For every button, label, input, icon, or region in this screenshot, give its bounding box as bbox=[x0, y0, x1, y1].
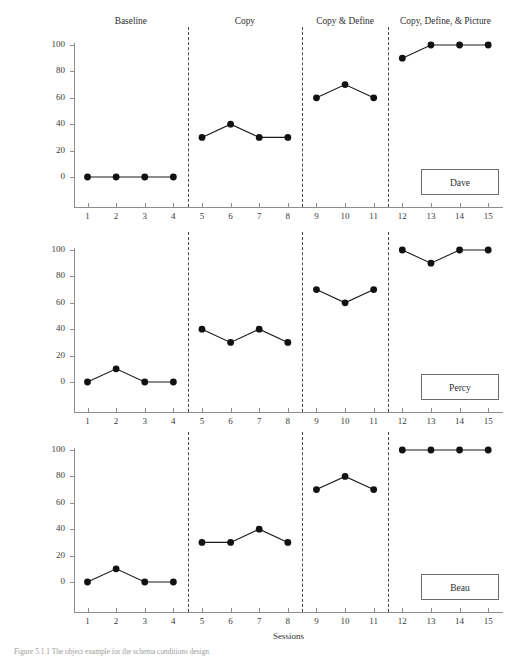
data-point-marker bbox=[342, 473, 349, 480]
data-point-marker bbox=[84, 579, 91, 586]
data-point-marker bbox=[313, 486, 320, 493]
data-point-marker bbox=[199, 539, 206, 546]
data-point-marker bbox=[456, 447, 463, 454]
series-line-segment bbox=[88, 569, 174, 582]
data-point-marker bbox=[227, 539, 234, 546]
x-axis-title: Sessions bbox=[74, 631, 503, 641]
panel-beau: 020406080100123456789101112131415Beau bbox=[0, 0, 513, 656]
participant-label-beau: Beau bbox=[421, 574, 499, 600]
data-point-marker bbox=[256, 526, 263, 533]
data-point-marker bbox=[170, 579, 177, 586]
data-point-marker bbox=[428, 447, 435, 454]
data-point-marker bbox=[399, 447, 406, 454]
figure-container: Percentage of Vocabulary Words Defined C… bbox=[0, 0, 513, 656]
data-point-marker bbox=[485, 447, 492, 454]
data-point-marker bbox=[141, 579, 148, 586]
data-point-marker bbox=[113, 565, 120, 572]
data-point-marker bbox=[370, 486, 377, 493]
series-line-segment bbox=[202, 529, 288, 542]
data-point-marker bbox=[284, 539, 291, 546]
series-beau bbox=[0, 0, 513, 656]
figure-caption: Figure 5.1.1 The object example for the … bbox=[14, 647, 211, 656]
